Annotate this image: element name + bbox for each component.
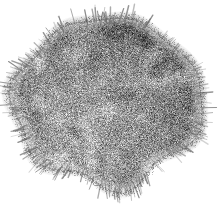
micrograph-figure: Virus particle electron micrograph <box>0 0 218 204</box>
virus-particle-micrograph-image <box>0 0 218 204</box>
